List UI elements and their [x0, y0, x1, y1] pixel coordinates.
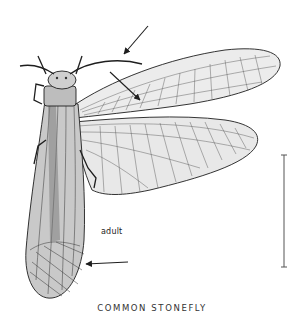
- stonefly-illustration: [0, 0, 304, 330]
- stonefly-body: [26, 71, 85, 298]
- figure-caption: COMMON STONEFLY: [0, 303, 304, 313]
- antenna-arrow: [124, 26, 148, 54]
- hindwing-right: [74, 117, 258, 195]
- wing-tip-arrow: [86, 262, 128, 264]
- forewing-right: [70, 49, 280, 118]
- scale-bar: [281, 155, 287, 267]
- stage-label: adult: [101, 227, 122, 236]
